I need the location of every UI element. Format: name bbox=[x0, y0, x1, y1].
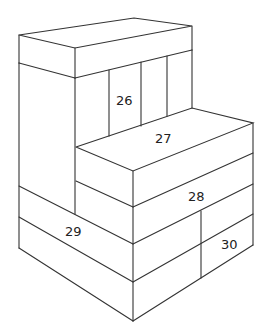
label-26: 26 bbox=[116, 93, 133, 108]
label-28: 28 bbox=[188, 189, 205, 204]
label-30: 30 bbox=[221, 237, 238, 252]
label-27: 27 bbox=[155, 131, 172, 146]
label-29: 29 bbox=[65, 224, 82, 239]
left-column bbox=[19, 63, 75, 248]
top-cap-block bbox=[19, 18, 192, 78]
left-face-courses bbox=[19, 181, 133, 321]
block-stack-diagram: 26 27 28 29 30 bbox=[0, 0, 270, 335]
